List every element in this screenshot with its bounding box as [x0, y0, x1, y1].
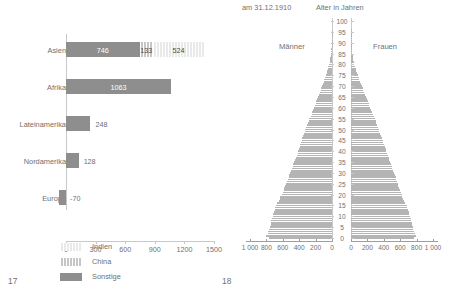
pyramid-age-tick-label: 15 — [333, 202, 351, 209]
bar-x-tick — [214, 241, 215, 244]
pyramid-cohort-bar — [351, 142, 383, 144]
pyramid-x-tick-label: 1 000 — [425, 244, 442, 251]
pyramid-cohort-bar — [315, 105, 332, 107]
stacked-bar-chart: Asien746133524Afrika1063Lateinamerika248… — [0, 0, 228, 291]
pyramid-age-tick-mark — [331, 227, 334, 228]
pyramid-x-tick-label: 0 — [330, 244, 334, 251]
pyramid-cohort-bar — [312, 114, 333, 116]
bar-value-label: 524 — [153, 45, 205, 54]
pyramid-male-bars — [250, 18, 332, 241]
bar-x-tick — [184, 241, 185, 244]
page-root: Asien746133524Afrika1063Lateinamerika248… — [0, 0, 455, 291]
pyramid-cohort-bar — [284, 189, 332, 191]
pyramid-cohort-bar — [351, 94, 365, 96]
pyramid-cohort-bar — [351, 220, 411, 222]
pyramid-cohort-bar — [351, 109, 371, 111]
pyramid-cohort-bar — [323, 83, 332, 85]
pyramid-age-tick-label: 75 — [333, 72, 351, 79]
pyramid-cohort-bar — [300, 144, 332, 146]
pyramid-cohort-bar — [294, 161, 332, 163]
pyramid-age-tick-mark — [331, 64, 334, 65]
pyramid-x-tick-label: 400 — [378, 244, 389, 251]
pyramid-cohort-bar — [351, 105, 369, 107]
pyramid-age-tick-label: 65 — [333, 93, 351, 100]
pyramid-cohort-bar — [351, 79, 359, 81]
pyramid-cohort-bar — [351, 100, 368, 102]
pyramid-cohort-bar — [351, 163, 391, 165]
pyramid-cohort-bar — [351, 77, 359, 79]
pyramid-age-tick-mark — [331, 54, 334, 55]
legend-item-sonstige: Sonstige — [60, 270, 121, 283]
pyramid-age-tick-mark — [331, 162, 334, 163]
pyramid-cohort-bar — [351, 81, 360, 83]
population-pyramid-chart: am 31.12.1910 Alter in Jahren Männer Fra… — [228, 0, 455, 291]
pyramid-age-tick-label: 20 — [333, 191, 351, 198]
bar-plot-area: Asien746133524Afrika1063Lateinamerika248… — [0, 30, 228, 215]
legend-item-china: China — [60, 255, 121, 268]
pyramid-cohort-bar — [351, 172, 394, 174]
pyramid-age-tick-mark — [351, 86, 354, 87]
pyramid-cohort-bar — [273, 213, 332, 215]
pyramid-age-tick-mark — [331, 151, 334, 152]
pyramid-cohort-bar — [286, 183, 332, 185]
pyramid-age-axis-title: Alter in Jahren — [316, 3, 364, 12]
pyramid-cohort-bar — [306, 127, 332, 129]
pyramid-cohort-bar — [320, 92, 332, 94]
pyramid-cohort-bar — [351, 90, 363, 92]
pyramid-cohort-bar — [274, 211, 332, 213]
pyramid-cohort-bar — [351, 185, 398, 187]
pyramid-cohort-bar — [273, 216, 332, 218]
pyramid-x-tick — [332, 239, 333, 242]
pyramid-cohort-bar — [351, 176, 396, 178]
pyramid-cohort-bar — [269, 229, 332, 231]
pyramid-x-tick-label: 0 — [349, 244, 353, 251]
pyramid-cohort-bar — [298, 150, 332, 152]
pyramid-cohort-bar — [276, 205, 332, 207]
pyramid-age-tick-label: 50 — [333, 126, 351, 133]
pyramid-cohort-bar — [351, 59, 353, 61]
pyramid-cohort-bar — [331, 48, 332, 50]
pyramid-x-axis-line-right — [351, 241, 438, 242]
pyramid-cohort-bar — [351, 174, 395, 176]
pyramid-cohort-bar — [331, 51, 332, 53]
pyramid-cohort-bar — [351, 68, 356, 70]
pyramid-cohort-bar — [275, 209, 332, 211]
pyramid-cohort-bar — [351, 213, 409, 215]
pyramid-cohort-bar — [295, 159, 332, 161]
pyramid-cohort-bar — [316, 103, 332, 105]
legend-item-indien: Indien — [60, 240, 121, 253]
pyramid-cohort-bar — [351, 150, 386, 152]
pyramid-cohort-bar — [351, 51, 352, 53]
pyramid-cohort-bar — [288, 179, 332, 181]
pyramid-cohort-bar — [351, 122, 376, 124]
pyramid-cohort-bar — [351, 231, 414, 233]
bar-x-tick-label: 1500 — [206, 245, 222, 254]
pyramid-age-tick-mark — [331, 32, 334, 33]
pyramid-cohort-bar — [351, 148, 386, 150]
pyramid-age-tick-mark — [331, 195, 334, 196]
pyramid-cohort-bar — [312, 111, 332, 113]
pyramid-cohort-bar — [284, 187, 332, 189]
bar-value-label: 128 — [84, 156, 96, 165]
pyramid-cohort-bar — [300, 146, 332, 148]
pyramid-cohort-bar — [351, 103, 369, 105]
pyramid-cohort-bar — [351, 235, 416, 237]
bar-x-tick-label: 900 — [149, 245, 161, 254]
pyramid-cohort-bar — [351, 66, 355, 68]
pyramid-cohort-bar — [351, 157, 389, 159]
bar-category-label: Nordamerika — [24, 156, 66, 165]
pyramid-age-tick-mark — [331, 216, 334, 217]
pyramid-age-tick-mark — [351, 140, 354, 141]
pyramid-age-tick-mark — [351, 162, 354, 163]
pyramid-age-tick-label: 30 — [333, 169, 351, 176]
pyramid-cohort-bar — [318, 96, 332, 98]
pyramid-x-tick-label: 800 — [261, 244, 272, 251]
pyramid-cohort-bar — [351, 200, 404, 202]
pyramid-cohort-bar — [319, 94, 332, 96]
pyramid-cohort-bar — [351, 118, 375, 120]
page-number-right: 18 — [222, 276, 231, 286]
pyramid-age-tick-mark — [351, 64, 354, 65]
pyramid-cohort-bar — [351, 168, 392, 170]
pyramid-cohort-bar — [307, 124, 332, 126]
pyramid-cohort-bar — [331, 55, 332, 57]
